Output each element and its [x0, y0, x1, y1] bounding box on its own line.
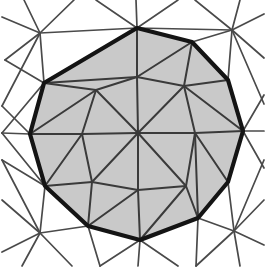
- triangulated-polygon-mesh: [0, 0, 265, 267]
- interior-mesh-edge: [137, 77, 138, 133]
- interior-mesh-edge: [82, 133, 138, 134]
- exterior-mesh-edge: [136, 0, 137, 28]
- figure-root: [0, 0, 265, 267]
- exterior-mesh-edge: [2, 133, 30, 134]
